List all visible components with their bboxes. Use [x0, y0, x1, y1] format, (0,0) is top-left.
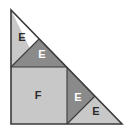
figure-canvas: E E F E E	[0, 0, 130, 134]
label-f-square: F	[35, 89, 42, 101]
label-e-middle-right: E	[74, 91, 81, 103]
label-e-upper-right: E	[38, 48, 45, 60]
label-e-lower-right: E	[92, 105, 99, 117]
geometry-figure: E E F E E	[0, 0, 130, 134]
label-e-upper-left: E	[18, 31, 25, 43]
